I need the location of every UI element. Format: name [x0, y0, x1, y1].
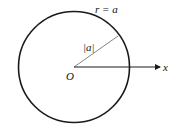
radius-label: |a|: [83, 41, 95, 53]
polar-circle-diagram: r = a |a| O x: [0, 0, 177, 140]
radius-line: [74, 36, 118, 67]
origin-label: O: [66, 70, 74, 82]
curve-label: r = a: [95, 3, 118, 15]
x-axis-label: x: [162, 61, 168, 73]
